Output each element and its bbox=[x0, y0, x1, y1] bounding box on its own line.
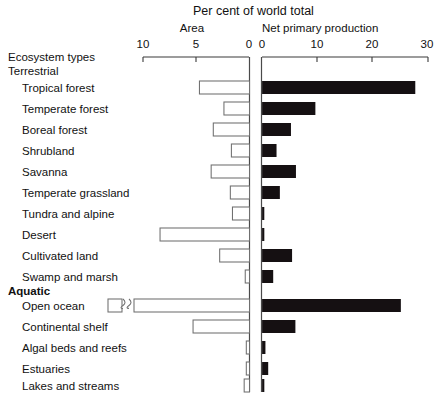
npp-bar-desert bbox=[262, 228, 264, 241]
left-axis-ticklabels: 10 5 0 bbox=[137, 38, 253, 50]
npp-bar-tropical-forest bbox=[262, 81, 415, 94]
npp-bar-algal-beds-and-reefs bbox=[262, 341, 265, 354]
area-bar-estuaries bbox=[246, 362, 249, 375]
npp-bar-savanna bbox=[262, 165, 296, 178]
npp-bar-temperate-forest bbox=[262, 102, 315, 115]
npp-bar-continental-shelf bbox=[262, 320, 295, 333]
chart-title: Per cent of world total bbox=[193, 4, 314, 18]
area-bar-cultivated-land bbox=[220, 249, 250, 262]
row-label-shrubland: Shrubland bbox=[22, 145, 74, 157]
group-label-aquatic: Aquatic bbox=[8, 285, 51, 297]
row-label-tropical-forest: Tropical forest bbox=[22, 82, 95, 94]
area-bar-algal-beds-and-reefs bbox=[246, 341, 249, 354]
area-bar-temperate-forest bbox=[224, 102, 250, 115]
npp-bar-swamp-and-marsh bbox=[262, 270, 273, 283]
row-label-tundra-and-alpine: Tundra and alpine bbox=[22, 208, 114, 220]
row-label-boreal-forest: Boreal forest bbox=[22, 124, 88, 136]
npp-bar-shrubland bbox=[262, 144, 276, 157]
npp-bar-temperate-grassland bbox=[262, 186, 280, 199]
right-tick-20: 20 bbox=[366, 38, 379, 50]
row-header: Ecosystem types bbox=[8, 51, 95, 63]
npp-bar-cultivated-land bbox=[262, 249, 292, 262]
right-tick-10: 10 bbox=[311, 38, 324, 50]
right-axis-ticklabels: 0 10 20 30 bbox=[259, 38, 434, 50]
left-tick-0: 0 bbox=[246, 38, 252, 50]
row-label-cultivated-land: Cultivated land bbox=[22, 250, 98, 262]
npp-bar-lakes-and-streams bbox=[262, 379, 264, 392]
chart-rows: TerrestrialAquaticTropical forestTempera… bbox=[8, 65, 415, 392]
npp-bar-boreal-forest bbox=[262, 123, 291, 136]
area-bar-continental-shelf bbox=[193, 320, 249, 333]
right-tick-0: 0 bbox=[259, 38, 265, 50]
area-bar-boreal-forest bbox=[213, 123, 249, 136]
row-label-savanna: Savanna bbox=[22, 166, 68, 178]
area-bar-temperate-grassland bbox=[230, 186, 249, 199]
row-label-estuaries: Estuaries bbox=[22, 363, 70, 375]
left-panel-label: Area bbox=[180, 22, 205, 34]
row-label-temperate-grassland: Temperate grassland bbox=[22, 187, 129, 199]
npp-bar-estuaries bbox=[262, 362, 268, 375]
row-label-swamp-and-marsh: Swamp and marsh bbox=[22, 271, 118, 283]
area-bar-desert bbox=[160, 228, 249, 241]
area-bar-shrubland bbox=[231, 144, 249, 157]
area-bar-swamp-and-marsh bbox=[245, 270, 249, 283]
row-label-algal-beds-and-reefs: Algal beds and reefs bbox=[22, 342, 127, 354]
area-bar-tropical-forest bbox=[199, 81, 249, 94]
area-bar-tundra-and-alpine bbox=[232, 207, 249, 220]
row-label-temperate-forest: Temperate forest bbox=[22, 103, 109, 115]
axis-lines bbox=[143, 57, 428, 62]
npp-bar-open-ocean bbox=[262, 299, 401, 312]
row-label-open-ocean: Open ocean bbox=[22, 300, 85, 312]
row-label-continental-shelf: Continental shelf bbox=[22, 321, 108, 333]
group-label-terrestrial: Terrestrial bbox=[8, 65, 58, 77]
right-tick-30: 30 bbox=[421, 38, 434, 50]
area-bar-savanna bbox=[211, 165, 249, 178]
area-bar-open-ocean bbox=[108, 299, 250, 312]
row-label-desert: Desert bbox=[22, 229, 57, 241]
left-tick-5: 5 bbox=[193, 38, 199, 50]
npp-bar-tundra-and-alpine bbox=[262, 207, 264, 220]
row-label-lakes-and-streams: Lakes and streams bbox=[22, 380, 119, 392]
ecosystem-bar-chart: Per cent of world total Area Net primary… bbox=[0, 0, 443, 398]
area-bar-lakes-and-streams bbox=[244, 379, 249, 392]
right-panel-label: Net primary production bbox=[262, 22, 378, 34]
left-tick-10: 10 bbox=[137, 38, 150, 50]
